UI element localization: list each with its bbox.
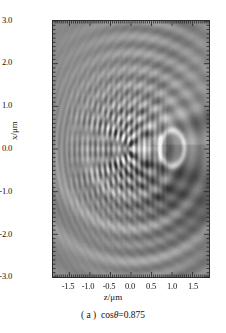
xtick-label: 1.5 [181,281,205,291]
plot-area [52,20,210,278]
ytick-label: -2.0 [0,229,12,239]
y-axis-label: x/μm [9,121,19,140]
ytick-label: 3.0 [0,15,12,25]
figure-panel: 3.0 2.0 1.0 0.0 -1.0 -2.0 -3.0 -1.5 -1.0… [0,0,226,333]
x-axis-label: z/μm [0,292,226,302]
ytick-label: 0.0 [0,143,12,153]
figure-caption: ( a ) cosθ=0.875 [0,310,226,320]
ytick-label: -3.0 [0,271,12,281]
page-running-header [96,0,216,8]
caption-text: cos [101,310,114,320]
ytick-label: 1.0 [0,100,12,110]
ytick-label: -1.0 [0,186,12,196]
caption-value: =0.875 [118,310,145,320]
caption-prefix: ( a ) [81,310,96,320]
ytick-label: 2.0 [0,57,12,67]
intensity-heatmap [53,21,209,277]
